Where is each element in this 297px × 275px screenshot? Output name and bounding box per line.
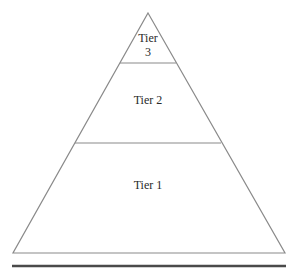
- tier-2-label: Tier 2: [118, 93, 178, 107]
- tier-1-label: Tier 1: [118, 178, 178, 192]
- tier-3-label-line2: 3: [128, 45, 168, 59]
- tier-3-label-line1: Tier: [128, 31, 168, 45]
- tier-3-label: Tier 3: [128, 31, 168, 59]
